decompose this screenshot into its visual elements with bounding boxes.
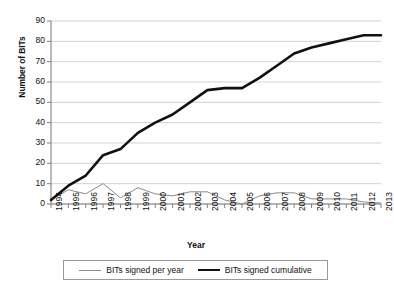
legend-label-per-year: BITs signed per year [106, 265, 183, 275]
x-tick-label: 2003 [211, 192, 220, 211]
x-tick-label: 2011 [350, 193, 359, 211]
legend-item-cumulative: BITs signed cumulative [198, 265, 312, 275]
chart-legend: BITs signed per year BITs signed cumulat… [63, 260, 328, 280]
axis-ticks [47, 21, 381, 208]
y-tick-label: 0 [21, 199, 45, 208]
x-tick-label: 2012 [368, 192, 377, 211]
y-tick-label: 50 [21, 97, 45, 106]
x-tick-label: 2009 [316, 192, 325, 211]
x-tick-label: 2013 [385, 192, 394, 211]
x-tick-label: 1999 [142, 192, 151, 211]
y-tick-label: 80 [21, 36, 45, 45]
series-line-cumulative [51, 35, 381, 200]
gridlines [51, 21, 381, 204]
x-tick-label: 2000 [159, 192, 168, 211]
x-tick-label: 1997 [107, 192, 116, 211]
axis-lines [51, 21, 381, 204]
y-tick-label: 10 [21, 179, 45, 188]
x-tick-label: 2010 [333, 192, 342, 211]
y-tick-label: 70 [21, 57, 45, 66]
y-tick-label: 30 [21, 138, 45, 147]
legend-swatch-cumulative-icon [198, 269, 220, 272]
x-tick-label: 1994 [55, 192, 64, 211]
x-tick-label: 2005 [246, 192, 255, 211]
x-tick-label: 2002 [194, 192, 203, 211]
x-tick-label: 2008 [298, 192, 307, 211]
x-tick-label: 2001 [177, 192, 186, 211]
legend-item-per-year: BITs signed per year [79, 265, 183, 275]
x-axis-title: Year [0, 240, 392, 250]
legend-swatch-per-year-icon [79, 270, 101, 271]
data-series-layer [51, 35, 381, 204]
x-tick-label: 2006 [263, 192, 272, 211]
x-tick-label: 1998 [124, 192, 133, 211]
y-tick-label: 20 [21, 158, 45, 167]
y-tick-label: 90 [21, 16, 45, 25]
x-tick-label: 1996 [90, 192, 99, 211]
legend-label-cumulative: BITs signed cumulative [225, 265, 312, 275]
x-tick-label: 2004 [229, 192, 238, 211]
x-tick-label: 2007 [281, 192, 290, 211]
y-tick-label: 40 [21, 118, 45, 127]
y-tick-label: 60 [21, 77, 45, 86]
x-tick-label: 1995 [72, 192, 81, 211]
